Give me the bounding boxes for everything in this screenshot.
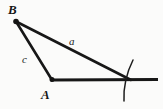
vertex-point-A [50,77,55,82]
vertex-label-b: B [8,3,17,16]
vertex-point-B [13,19,19,25]
geometry-figure: B A a c [0,0,163,109]
side-label-a: a [69,36,75,47]
vertex-label-a: A [41,88,50,101]
side-label-c: c [22,54,27,65]
segment-baseline [51,80,158,81]
